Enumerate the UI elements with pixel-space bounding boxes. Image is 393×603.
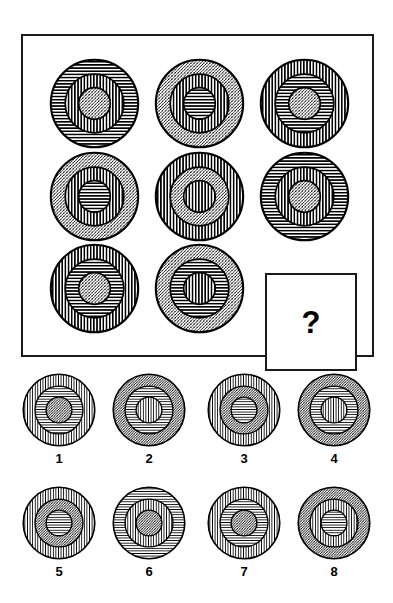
matrix-cell-r2c2 [153, 150, 246, 243]
answer-option-1-figure [21, 372, 97, 448]
matrix-cell-r1c2 [153, 57, 246, 150]
concentric-rings-figure [296, 485, 372, 561]
answer-option-8-figure [296, 485, 372, 561]
concentric-rings-figure [258, 57, 351, 150]
concentric-rings-figure [48, 57, 141, 150]
answer-option-8-label: 8 [296, 564, 372, 579]
answer-option-7-label: 7 [206, 564, 282, 579]
concentric-rings-figure [153, 242, 246, 335]
concentric-rings-figure [21, 372, 97, 448]
matrix-cell-r2c1 [48, 150, 141, 243]
answer-option-3[interactable]: 3 [206, 372, 282, 466]
concentric-rings-figure [111, 485, 187, 561]
matrix-cell-r2c3 [258, 150, 351, 243]
answer-option-4-figure [296, 372, 372, 448]
answer-option-1[interactable]: 1 [21, 372, 97, 466]
concentric-rings-figure [153, 57, 246, 150]
matrix-cell-r1c3 [258, 57, 351, 150]
concentric-rings-figure [296, 372, 372, 448]
matrix-cell-r3c2 [153, 242, 246, 335]
concentric-rings-figure [48, 242, 141, 335]
answer-option-6[interactable]: 6 [111, 485, 187, 579]
concentric-rings-figure [206, 372, 282, 448]
matrix-frame: ? [21, 34, 374, 357]
answer-option-2[interactable]: 2 [111, 372, 187, 466]
answer-option-3-figure [206, 372, 282, 448]
concentric-rings-figure [48, 150, 141, 243]
answer-option-2-label: 2 [111, 451, 187, 466]
concentric-rings-figure [21, 485, 97, 561]
answer-option-6-figure [111, 485, 187, 561]
concentric-rings-figure [258, 150, 351, 243]
answer-option-7[interactable]: 7 [206, 485, 282, 579]
answer-option-4-label: 4 [296, 451, 372, 466]
answer-option-5-figure [21, 485, 97, 561]
matrix-cell-r1c1 [48, 57, 141, 150]
answer-option-1-label: 1 [21, 451, 97, 466]
answer-option-4[interactable]: 4 [296, 372, 372, 466]
matrix-cell-r3c1 [48, 242, 141, 335]
concentric-rings-figure [153, 150, 246, 243]
answer-option-3-label: 3 [206, 451, 282, 466]
answer-option-2-figure [111, 372, 187, 448]
answer-option-8[interactable]: 8 [296, 485, 372, 579]
answer-options-panel: 1 2 3 4 5 6 7 8 [0, 366, 393, 603]
answer-option-7-figure [206, 485, 282, 561]
missing-cell-answer-box[interactable]: ? [265, 273, 357, 371]
answer-option-5-label: 5 [21, 564, 97, 579]
concentric-rings-figure [111, 372, 187, 448]
question-mark-label: ? [302, 307, 321, 338]
concentric-rings-figure [206, 485, 282, 561]
answer-option-6-label: 6 [111, 564, 187, 579]
answer-option-5[interactable]: 5 [21, 485, 97, 579]
